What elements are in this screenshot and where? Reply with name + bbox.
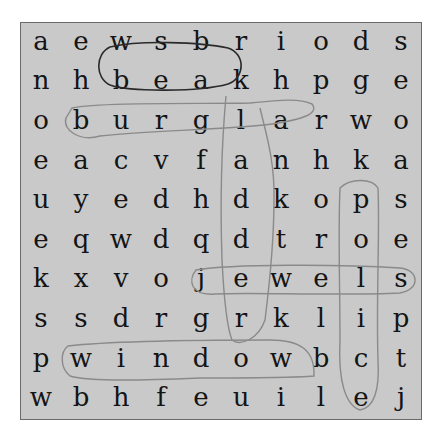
letter-cell[interactable]: n <box>141 340 181 380</box>
letter-cell[interactable]: r <box>141 102 181 142</box>
letter-cell[interactable]: e <box>141 63 181 103</box>
letter-cell[interactable]: h <box>261 63 301 103</box>
letter-cell[interactable]: s <box>381 23 421 63</box>
letter-cell[interactable]: w <box>101 23 141 63</box>
letter-cell[interactable]: l <box>341 261 381 301</box>
letter-cell[interactable]: b <box>181 23 221 63</box>
letter-cell[interactable]: p <box>301 63 341 103</box>
letter-cell[interactable]: b <box>61 379 101 419</box>
letter-cell[interactable]: w <box>21 379 61 419</box>
letter-cell[interactable]: t <box>261 221 301 261</box>
letter-cell[interactable]: r <box>221 23 261 63</box>
letter-cell[interactable]: p <box>21 340 61 380</box>
letter-cell[interactable]: b <box>61 102 101 142</box>
letter-cell[interactable]: g <box>341 63 381 103</box>
letter-cell[interactable]: r <box>301 102 341 142</box>
letter-cell[interactable]: b <box>301 340 341 380</box>
letter-cell[interactable]: o <box>301 181 341 221</box>
letter-cell[interactable]: k <box>261 181 301 221</box>
letter-cell[interactable]: s <box>141 23 181 63</box>
letter-cell[interactable]: o <box>381 102 421 142</box>
letter-cell[interactable]: p <box>381 300 421 340</box>
letter-cell[interactable]: a <box>261 102 301 142</box>
letter-cell[interactable]: f <box>141 379 181 419</box>
letter-cell[interactable]: h <box>301 142 341 182</box>
letter-cell[interactable]: p <box>341 181 381 221</box>
letter-cell[interactable]: y <box>61 181 101 221</box>
letter-cell[interactable]: e <box>221 261 261 301</box>
letter-cell[interactable]: q <box>61 221 101 261</box>
letter-cell[interactable]: r <box>301 221 341 261</box>
letter-cell[interactable]: e <box>101 181 141 221</box>
letter-cell[interactable]: e <box>61 23 101 63</box>
letter-cell[interactable]: u <box>221 379 261 419</box>
letter-cell[interactable]: w <box>261 340 301 380</box>
letter-cell[interactable]: b <box>101 63 141 103</box>
letter-cell[interactable]: d <box>181 340 221 380</box>
letter-cell[interactable]: o <box>221 340 261 380</box>
letter-cell[interactable]: s <box>381 181 421 221</box>
letter-cell[interactable]: w <box>101 221 141 261</box>
letter-cell[interactable]: h <box>61 63 101 103</box>
letter-cell[interactable]: n <box>261 142 301 182</box>
letter-cell[interactable]: g <box>181 300 221 340</box>
letter-cell[interactable]: d <box>221 181 261 221</box>
letter-cell[interactable]: v <box>141 142 181 182</box>
letter-cell[interactable]: l <box>301 300 341 340</box>
letter-cell[interactable]: s <box>381 261 421 301</box>
letter-cell[interactable]: a <box>21 23 61 63</box>
letter-cell[interactable]: e <box>21 142 61 182</box>
letter-cell[interactable]: e <box>381 221 421 261</box>
letter-cell[interactable]: w <box>261 261 301 301</box>
letter-cell[interactable]: k <box>221 63 261 103</box>
letter-cell[interactable]: u <box>101 102 141 142</box>
letter-cell[interactable]: s <box>21 300 61 340</box>
letter-cell[interactable]: x <box>61 261 101 301</box>
letter-cell[interactable]: i <box>101 340 141 380</box>
letter-cell[interactable]: r <box>141 300 181 340</box>
letter-cell[interactable]: o <box>301 23 341 63</box>
letter-cell[interactable]: d <box>221 221 261 261</box>
letter-cell[interactable]: w <box>341 102 381 142</box>
letter-cell[interactable]: d <box>141 221 181 261</box>
letter-cell[interactable]: d <box>341 23 381 63</box>
letter-cell[interactable]: d <box>141 181 181 221</box>
letter-cell[interactable]: q <box>181 221 221 261</box>
letter-cell[interactable]: o <box>21 102 61 142</box>
letter-cell[interactable]: l <box>221 102 261 142</box>
letter-cell[interactable]: e <box>181 379 221 419</box>
letter-cell[interactable]: r <box>221 300 261 340</box>
letter-cell[interactable]: k <box>21 261 61 301</box>
letter-cell[interactable]: f <box>181 142 221 182</box>
letter-cell[interactable]: a <box>181 63 221 103</box>
letter-cell[interactable]: j <box>381 379 421 419</box>
letter-cell[interactable]: k <box>261 300 301 340</box>
letter-cell[interactable]: e <box>341 379 381 419</box>
letter-cell[interactable]: w <box>61 340 101 380</box>
letter-cell[interactable]: g <box>181 102 221 142</box>
letter-cell[interactable]: u <box>21 181 61 221</box>
letter-cell[interactable]: j <box>181 261 221 301</box>
letter-cell[interactable]: e <box>301 261 341 301</box>
letter-cell[interactable]: a <box>381 142 421 182</box>
letter-cell[interactable]: a <box>221 142 261 182</box>
letter-cell[interactable]: l <box>301 379 341 419</box>
letter-cell[interactable]: e <box>381 63 421 103</box>
letter-cell[interactable]: o <box>141 261 181 301</box>
letter-cell[interactable]: c <box>101 142 141 182</box>
letter-cell[interactable]: k <box>341 142 381 182</box>
letter-cell[interactable]: o <box>341 221 381 261</box>
letter-cell[interactable]: v <box>101 261 141 301</box>
letter-cell[interactable]: e <box>21 221 61 261</box>
letter-cell[interactable]: h <box>181 181 221 221</box>
letter-cell[interactable]: i <box>261 379 301 419</box>
letter-cell[interactable]: a <box>61 142 101 182</box>
letter-cell[interactable]: h <box>101 379 141 419</box>
letter-cell[interactable]: t <box>381 340 421 380</box>
letter-cell[interactable]: c <box>341 340 381 380</box>
letter-cell[interactable]: d <box>101 300 141 340</box>
letter-cell[interactable]: n <box>21 63 61 103</box>
letter-cell[interactable]: i <box>341 300 381 340</box>
letter-cell[interactable]: i <box>261 23 301 63</box>
letter-cell[interactable]: s <box>61 300 101 340</box>
